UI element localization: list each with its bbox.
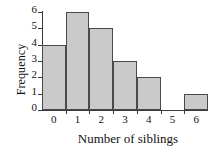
x-tick-label: 4 bbox=[139, 114, 159, 125]
x-tick-label: 0 bbox=[44, 114, 64, 125]
x-tick-mark bbox=[137, 110, 138, 114]
x-axis-title: Number of siblings bbox=[40, 131, 216, 147]
y-tick-label: 1 bbox=[32, 86, 38, 97]
x-tick-mark bbox=[113, 110, 114, 114]
y-tick-label: 2 bbox=[32, 69, 38, 80]
plot-area bbox=[42, 12, 208, 110]
x-tick-mark bbox=[66, 110, 67, 114]
histogram-bar bbox=[66, 12, 90, 110]
x-tick-label: 1 bbox=[68, 114, 88, 125]
x-axis-line bbox=[42, 110, 208, 111]
x-tick-label: 5 bbox=[162, 114, 182, 125]
x-tick-mark bbox=[161, 110, 162, 114]
y-axis-title: Frequency bbox=[14, 22, 29, 118]
y-tick-label: 3 bbox=[32, 53, 38, 64]
x-tick-mark bbox=[89, 110, 90, 114]
histogram-bar bbox=[184, 94, 208, 110]
y-tick-mark bbox=[38, 110, 42, 111]
y-tick-label: 0 bbox=[32, 102, 38, 113]
x-tick-label: 2 bbox=[91, 114, 111, 125]
histogram-chart: Frequency 0123456 0123456 Number of sibl… bbox=[0, 0, 216, 153]
histogram-bar bbox=[42, 45, 66, 110]
histogram-bar bbox=[137, 77, 161, 110]
histogram-bar bbox=[113, 61, 137, 110]
x-tick-label: 6 bbox=[186, 114, 206, 125]
x-tick-mark bbox=[184, 110, 185, 114]
histogram-bar bbox=[89, 28, 113, 110]
x-tick-label: 3 bbox=[115, 114, 135, 125]
y-tick-label: 4 bbox=[32, 37, 38, 48]
y-tick-label: 5 bbox=[32, 20, 38, 31]
y-tick-label: 6 bbox=[32, 4, 38, 15]
